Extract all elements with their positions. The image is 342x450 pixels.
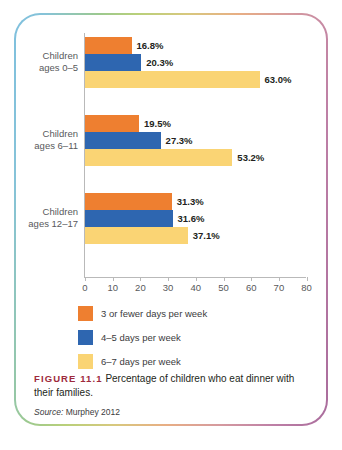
figure-frame: Childrenages 0–516.8%20.3%63.0%Childrena… — [14, 13, 328, 426]
bar — [85, 115, 139, 132]
legend-label: 3 or fewer days per week — [101, 308, 207, 319]
legend-swatch — [78, 354, 93, 369]
x-axis-tick — [307, 277, 308, 281]
category-label-line: ages 6–11 — [16, 140, 78, 152]
bar-value-label: 37.1% — [193, 227, 220, 244]
chart-legend: 3 or fewer days per week4–5 days per wee… — [78, 303, 207, 375]
x-axis-tick — [85, 277, 86, 281]
bar-value-label: 31.6% — [178, 210, 205, 227]
category-label-line: ages 12–17 — [16, 218, 78, 230]
x-axis-tick-label: 30 — [163, 282, 174, 293]
figure-frame-inner: Childrenages 0–516.8%20.3%63.0%Childrena… — [16, 15, 326, 424]
x-axis-tick-label: 70 — [274, 282, 285, 293]
bar — [85, 149, 232, 166]
legend-swatch — [78, 306, 93, 321]
x-axis-tick-label: 50 — [218, 282, 229, 293]
bar — [85, 210, 173, 227]
category-label: Childrenages 6–11 — [16, 128, 78, 151]
x-axis-tick — [224, 277, 225, 281]
figure-number: FIGURE 11.1 — [34, 373, 103, 384]
legend-label: 6–7 days per week — [101, 356, 181, 367]
x-axis-tick — [196, 277, 197, 281]
legend-item: 6–7 days per week — [78, 351, 207, 372]
category-label: Childrenages 12–17 — [16, 206, 78, 229]
legend-label: 4–5 days per week — [101, 332, 181, 343]
category-label: Childrenages 0–5 — [16, 50, 78, 73]
x-axis-tick — [168, 277, 169, 281]
x-axis-tick-label: 40 — [191, 282, 202, 293]
figure-caption: FIGURE 11.1 Percentage of children who e… — [34, 372, 306, 400]
bar — [85, 193, 172, 210]
x-axis-tick-label: 60 — [246, 282, 257, 293]
bar-value-label: 27.3% — [166, 132, 193, 149]
bar-value-label: 16.8% — [137, 37, 164, 54]
bar-value-label: 31.3% — [177, 193, 204, 210]
x-axis-tick-label: 80 — [301, 282, 312, 293]
legend-item: 4–5 days per week — [78, 327, 207, 348]
bar — [85, 132, 161, 149]
bar-value-label: 19.5% — [144, 115, 171, 132]
x-axis-tick — [279, 277, 280, 281]
category-label-line: ages 0–5 — [16, 62, 78, 74]
bar-value-label: 63.0% — [265, 71, 292, 88]
bar — [85, 37, 132, 54]
legend-item: 3 or fewer days per week — [78, 303, 207, 324]
x-axis-tick — [251, 277, 252, 281]
category-label-line: Children — [16, 206, 78, 218]
source-label: Source: — [34, 407, 63, 417]
bar — [85, 227, 188, 244]
figure-source: Source: Murphey 2012 — [34, 407, 120, 417]
bar — [85, 54, 141, 71]
x-axis-tick-label: 0 — [82, 282, 87, 293]
x-axis-tick-label: 20 — [135, 282, 146, 293]
bar — [85, 71, 260, 88]
bar-value-label: 20.3% — [146, 54, 173, 71]
legend-swatch — [78, 330, 93, 345]
category-label-line: Children — [16, 128, 78, 140]
x-axis-tick-label: 10 — [107, 282, 118, 293]
x-axis-tick — [113, 277, 114, 281]
category-label-line: Children — [16, 50, 78, 62]
bar-value-label: 53.2% — [237, 149, 264, 166]
source-value: Murphey 2012 — [66, 407, 120, 417]
x-axis-tick — [140, 277, 141, 281]
